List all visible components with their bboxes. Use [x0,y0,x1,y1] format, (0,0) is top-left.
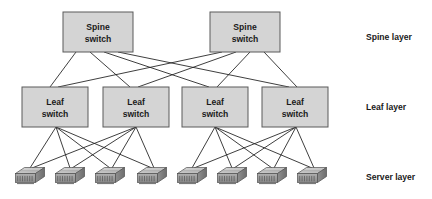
spine-leaf-link [118,52,289,87]
spine-switch[interactable]: Spineswitch [63,12,133,52]
leaf-server-link [296,127,314,168]
spine-leaf-link [50,52,76,87]
spine-switch-group: SpineswitchSpineswitch [63,12,280,52]
server-node[interactable] [96,168,125,185]
server-node[interactable] [178,168,207,185]
server-node[interactable] [56,168,85,185]
leaf-switch-label-line1: Leaf [127,97,145,107]
server-base [259,183,276,185]
leaf-switch-body [22,87,88,127]
leaf-server-link [136,127,154,168]
spine-switch-body [210,12,280,52]
leaf-switch-body [103,87,169,127]
layer-label-server-layer: Server layer [366,172,416,182]
topology-canvas: SpineswitchSpineswitch LeafswitchLeafswi… [0,0,432,199]
leaf-server-link [72,127,136,168]
spine-switch-label-line2: switch [85,34,112,44]
leaf-switch-label-line1: Leaf [206,97,224,107]
leaf-switch-group: LeafswitchLeafswitchLeafswitchLeafswitch [22,87,328,127]
leaf-server-link [30,127,56,168]
spine-leaf-link [90,52,130,87]
leaf-server-link [192,127,215,168]
leaf-switch-label-line1: Leaf [286,97,304,107]
spine-leaf-link [138,52,236,87]
leaf-switch-body [182,87,248,127]
server-base [219,183,236,185]
server-node[interactable] [258,168,287,185]
spine-leaf-topology-diagram: SpineswitchSpineswitch LeafswitchLeafswi… [0,0,432,199]
leaf-switch-label-line2: switch [123,109,150,119]
spine-switch[interactable]: Spineswitch [210,12,280,52]
leaf-server-link [194,127,296,168]
server-node[interactable] [138,168,167,185]
server-node[interactable] [16,168,45,185]
leaf-server-link [112,127,136,168]
server-base [57,183,74,185]
server-base [299,183,316,185]
spine-switch-label-line1: Spine [86,22,110,32]
spine-switch-body [63,12,133,52]
spine-leaf-link [104,52,209,87]
leaf-server-link [56,127,70,168]
server-base [17,183,34,185]
leaf-switch[interactable]: Leafswitch [262,87,328,127]
leaf-switch[interactable]: Leafswitch [103,87,169,127]
leaf-server-link [274,127,296,168]
leaf-server-link [32,127,136,168]
spine-leaf-link [264,52,297,87]
server-node[interactable] [298,168,327,185]
leaf-switch-label-line2: switch [202,109,229,119]
spine-switch-label-line1: Spine [233,22,257,32]
server-node[interactable] [218,168,247,185]
server-base [97,183,114,185]
leaf-switch[interactable]: Leafswitch [22,87,88,127]
spine-switch-label-line2: switch [232,34,259,44]
layer-label-leaf-layer: Leaf layer [366,102,407,112]
server-base [179,183,196,185]
leaf-switch-body [262,87,328,127]
spine-leaf-link [58,52,222,87]
leaf-switch-label-line2: switch [282,109,309,119]
leaf-switch-label-line1: Leaf [46,97,64,107]
leaf-switch-label-line2: switch [42,109,69,119]
layer-label-spine-layer: Spine layer [366,32,413,42]
server-node-group [16,168,327,185]
layer-labels-group: Spine layerLeaf layerServer layer [366,32,416,182]
leaf-switch[interactable]: Leafswitch [182,87,248,127]
server-base [139,183,156,185]
